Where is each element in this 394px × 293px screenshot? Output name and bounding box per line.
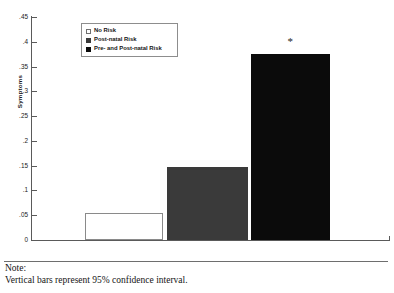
note-block: Note: Vertical bars represent 95% confid… xyxy=(0,258,394,293)
note-text: Vertical bars represent 95% confidence i… xyxy=(5,275,188,285)
y-axis-tick-label: .4 xyxy=(2,38,28,45)
y-axis-tick-label: .25 xyxy=(2,112,28,119)
legend-item: Pre- and Post-natal Risk xyxy=(86,45,173,53)
note-divider xyxy=(4,261,388,262)
legend-item: Post-natal Risk xyxy=(86,36,173,44)
bar-no-risk xyxy=(85,213,163,240)
y-axis-tick-label: .3 xyxy=(2,87,28,94)
y-axis-tick-label: .45 xyxy=(2,13,28,20)
bar-post-natal-risk xyxy=(167,167,248,240)
y-axis-tick-label: 0 xyxy=(2,236,28,243)
legend-swatch-icon xyxy=(86,29,91,34)
y-axis-tick-label: .15 xyxy=(2,162,28,169)
legend-item-label: Pre- and Post-natal Risk xyxy=(94,46,162,52)
note-label: Note: xyxy=(5,263,26,273)
bar-chart-figure: Symptoms .45.4.35.3.25.2.15.1.050 * No R… xyxy=(0,0,394,258)
significance-asterisk: * xyxy=(288,36,294,47)
legend-swatch-icon xyxy=(86,47,91,52)
legend-item: No Risk xyxy=(86,27,173,35)
legend-item-label: Post-natal Risk xyxy=(94,37,137,43)
y-axis-tick-label: .1 xyxy=(2,186,28,193)
y-axis-tick-label: .05 xyxy=(2,211,28,218)
y-axis-tick xyxy=(31,240,37,241)
x-axis-line xyxy=(31,240,390,241)
y-axis-tick-label: .35 xyxy=(2,63,28,70)
legend-item-label: No Risk xyxy=(94,28,116,34)
legend-swatch-icon xyxy=(86,38,91,43)
bar-pre-and-post-natal-risk xyxy=(251,54,330,240)
chart-legend: No RiskPost-natal RiskPre- and Post-nata… xyxy=(81,23,178,57)
y-axis-tick-label: .2 xyxy=(2,137,28,144)
